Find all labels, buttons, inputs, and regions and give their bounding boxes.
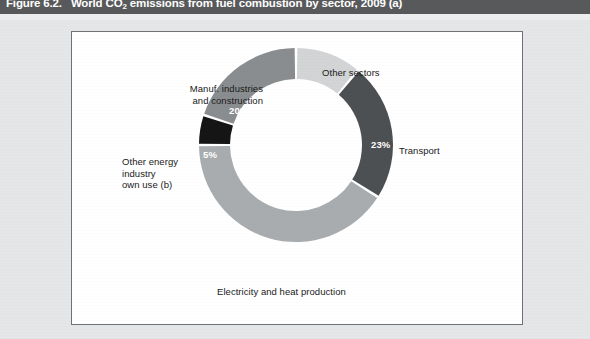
- slice-percent-transport: 23%: [371, 139, 390, 150]
- figure-title-subscript: 2: [123, 2, 127, 11]
- figure-title-part1: World CO: [71, 0, 123, 9]
- title-underband: [0, 14, 590, 20]
- donut-slice-transport: [339, 71, 393, 196]
- slice-label-other-energy: Other energy industry own use (b): [122, 156, 200, 191]
- slice-percent-other-sectors: 11%: [296, 86, 315, 97]
- figure-title: Figure 6.2.World CO2 emissions from fuel…: [6, 0, 402, 9]
- slice-label-electricity: Electricity and heat production: [217, 286, 346, 298]
- slice-label-other-energy-line1: Other energy: [122, 156, 178, 167]
- figure-number: Figure 6.2.: [6, 0, 62, 9]
- chart-frame: 11% 23% 41% 5% 20% Other sectors Transpo…: [71, 31, 523, 325]
- slice-percent-other-energy: 5%: [203, 149, 217, 160]
- slice-label-other-sectors: Other sectors: [322, 67, 380, 79]
- figure-title-part2: emissions from fuel combustion by sector…: [127, 0, 402, 9]
- donut-slice-electricity-and-heat-production: [199, 146, 377, 242]
- slice-label-manuf-line2: and construction: [192, 95, 263, 106]
- slice-label-manuf-industries: Manuf. industries and construction: [153, 83, 263, 106]
- slice-label-manuf-line1: Manuf. industries: [190, 83, 263, 94]
- slice-label-transport: Transport: [399, 145, 440, 157]
- donut-chart: 11% 23% 41% 5% 20% Other sectors Transpo…: [72, 32, 524, 326]
- slice-label-other-energy-line3: own use (b): [122, 179, 172, 190]
- slice-percent-manuf-industries: 20%: [229, 105, 248, 116]
- slice-label-other-energy-line2: industry: [122, 168, 156, 179]
- figure-title-bar: Figure 6.2.World CO2 emissions from fuel…: [0, 0, 590, 14]
- slice-percent-electricity: 41%: [254, 245, 273, 256]
